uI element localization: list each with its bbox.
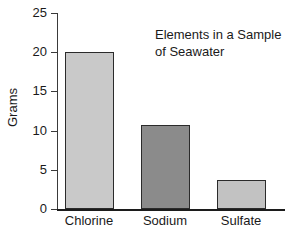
x-axis-line [57, 209, 285, 211]
x-axis-label-sulfate: Sulfate [191, 214, 291, 228]
bar-chart: 0510152025 Grams Elements in a Sample of… [0, 0, 291, 240]
y-axis-title: Grams [5, 78, 20, 138]
y-axis-tick-mark [51, 209, 57, 210]
bar-chlorine[interactable] [65, 52, 114, 209]
y-axis-tick-label: 5 [1, 163, 47, 176]
bar-sodium[interactable] [141, 125, 190, 209]
y-axis-tick-label: 25 [1, 6, 47, 19]
y-axis-tick-label: 20 [1, 45, 47, 58]
bar-sulfate[interactable] [217, 180, 266, 209]
plot-area [57, 13, 285, 209]
